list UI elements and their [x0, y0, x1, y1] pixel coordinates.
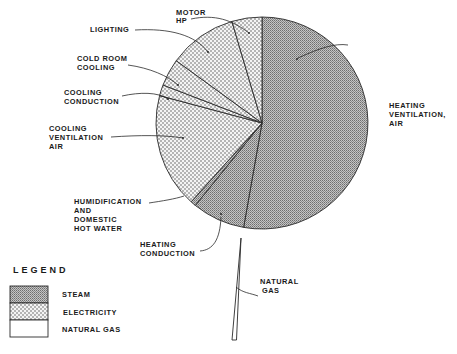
label-humidification: DOMESTIC [74, 215, 117, 224]
label-natural-gas: GAS [262, 286, 280, 295]
label-humidification: HOT WATER [74, 224, 122, 233]
legend-swatch-electricity [10, 303, 48, 320]
label-heating-ventilation-air: HEATING [389, 101, 425, 110]
legend: LEGEND STEAM ELECTRICITY NATURAL GAS [10, 265, 121, 337]
label-cooling-conduction: CONDUCTION [64, 97, 119, 106]
label-lighting: LIGHTING [90, 25, 129, 34]
pie-slices [156, 17, 368, 229]
legend-label-electricity: ELECTRICITY [63, 308, 117, 317]
label-heating-conduction: HEATING [140, 240, 176, 249]
label-cooling-ventilation-air: AIR [49, 142, 63, 151]
label-cold-room-cooling: COOLING [77, 63, 115, 72]
pie-chart: MOTOR HP LIGHTING COLD ROOM COOLING COOL… [0, 0, 457, 354]
label-humidification: HUMIDIFICATION [74, 197, 142, 206]
legend-title: LEGEND [13, 265, 69, 275]
label-natural-gas: NATURAL [260, 277, 299, 286]
label-heating-ventilation-air: VENTILATION, [389, 110, 446, 119]
label-heating-conduction: CONDUCTION [140, 249, 195, 258]
slice-natural-gas [232, 238, 241, 340]
legend-swatch-natural-gas [10, 320, 48, 337]
label-cooling-conduction: COOLING [64, 88, 102, 97]
label-cooling-ventilation-air: COOLING [49, 124, 87, 133]
label-heating-ventilation-air: AIR [389, 119, 403, 128]
legend-label-natural-gas: NATURAL GAS [62, 325, 121, 334]
label-cooling-ventilation-air: VENTILATION [49, 133, 103, 142]
label-cold-room-cooling: COLD ROOM [77, 54, 127, 63]
legend-label-steam: STEAM [62, 290, 90, 299]
label-motor-hp: HP [176, 16, 187, 25]
label-humidification: AND [74, 206, 92, 215]
legend-swatch-steam [10, 286, 48, 303]
